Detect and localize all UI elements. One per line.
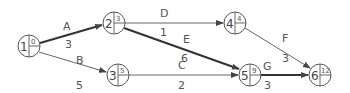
node-2-value: 3 [116,15,120,23]
edge-D-duration: 1 [160,26,167,39]
node-3-value: 5 [120,67,124,75]
edge-F-duration: 3 [282,52,289,65]
node-5-value: 9 [252,67,256,75]
edge-F: F 3 [245,28,310,68]
edge-B-label: B [76,54,84,67]
node-3: 3 5 [107,64,129,86]
node-1-value: 0 [31,38,35,46]
node-4: 4 4 [224,12,246,34]
edge-E-duration: 6 [181,52,188,65]
edge-B: B 5 [39,52,106,92]
edge-F-label: F [282,32,288,45]
edge-G-label: G [263,60,272,73]
node-6-value: 12 [321,67,330,75]
node-2-id: 2 [105,17,113,31]
edge-D-label: D [160,7,168,20]
network-diagram: A 3 B 5 C 2 D 1 E 6 F 3 G [0,0,350,93]
node-4-id: 4 [226,17,234,31]
node-1-id: 1 [20,40,28,54]
node-6: 6 12 [309,64,331,86]
node-5-id: 5 [241,69,249,83]
node-6-id: 6 [311,69,319,83]
edge-A: A 3 [40,20,102,51]
node-5: 5 9 [239,64,261,86]
node-1: 1 0 [18,35,40,57]
node-4-value: 4 [237,15,242,23]
node-2: 2 3 [103,12,125,34]
edge-C-duration: 2 [178,79,185,92]
edge-A-duration: 3 [65,38,72,51]
edge-E: E 6 [124,28,239,69]
edge-A-label: A [63,20,71,33]
edge-G-duration: 3 [264,79,271,92]
edge-B-duration: 5 [76,79,83,92]
diagram-canvas: A 3 B 5 C 2 D 1 E 6 F 3 G [0,0,350,93]
edge-E-label: E [183,33,190,46]
node-3-id: 3 [109,69,117,83]
